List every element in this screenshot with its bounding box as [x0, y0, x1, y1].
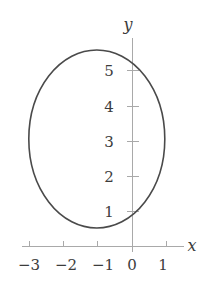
- x-axis-label: x: [187, 238, 196, 254]
- x-tick-label-0: 0: [127, 258, 137, 273]
- plot-figure: 5 4 3 2 1 −3 −2 −1 0 1 y x: [0, 0, 204, 290]
- y-tick-label-3: 3: [104, 135, 114, 150]
- y-tick-label-4: 4: [104, 100, 114, 115]
- x-tick-label-1: 1: [158, 258, 168, 273]
- x-tick-label-neg2: −2: [55, 258, 77, 273]
- y-tick-label-1: 1: [104, 205, 114, 220]
- y-tick-label-5: 5: [104, 64, 114, 79]
- y-axis-label: y: [123, 17, 132, 33]
- x-tick-label-neg1: −1: [92, 258, 114, 273]
- ellipse-curve: [29, 50, 165, 228]
- x-tick-label-neg3: −3: [18, 258, 40, 273]
- y-tick-label-2: 2: [104, 170, 114, 185]
- plot-canvas: [0, 0, 204, 290]
